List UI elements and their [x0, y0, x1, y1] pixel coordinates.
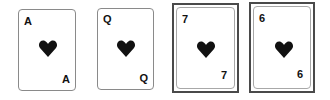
card-rank-bottom: 7: [221, 70, 227, 81]
card-rank-top: 6: [259, 13, 265, 24]
card-rank-bottom: 6: [297, 69, 303, 80]
card-rank-bottom: Q: [139, 73, 148, 84]
card-rank-top: Q: [103, 14, 112, 25]
card-rank-top: A: [24, 16, 32, 27]
card-queen-of-hearts[interactable]: Q Q: [97, 8, 154, 90]
card-seven-of-hearts[interactable]: 7 7: [172, 3, 239, 93]
card-rank-top: 7: [182, 14, 188, 25]
heart-icon: [274, 40, 294, 60]
card-rank-bottom: A: [62, 74, 70, 85]
heart-icon: [116, 39, 136, 59]
card-six-of-hearts[interactable]: 6 6: [249, 2, 315, 93]
card-ace-of-hearts[interactable]: A A: [18, 9, 76, 91]
heart-icon: [38, 39, 58, 59]
heart-icon: [196, 40, 216, 60]
